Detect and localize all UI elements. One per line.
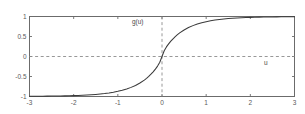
y-axis-label-annotation: g(u) <box>132 19 144 26</box>
chart-plot-area <box>0 0 305 114</box>
y-tick-label: 1 <box>23 13 27 20</box>
figure-canvas: -1-0.500.51 -3-2-10123 g(u)u <box>0 0 305 114</box>
x-tick-label: 2 <box>249 100 253 107</box>
x-tick-label: -3 <box>27 100 33 107</box>
x-tick-label: 3 <box>293 100 297 107</box>
x-axis-label-annotation: u <box>264 60 268 67</box>
y-tick-label: 0.5 <box>17 33 26 40</box>
y-tick-label: -0.5 <box>15 73 26 80</box>
y-tick-label: 0 <box>23 53 27 60</box>
x-tick-label: -1 <box>115 100 121 107</box>
x-tick-label: 1 <box>204 100 208 107</box>
x-tick-label: 0 <box>160 100 164 107</box>
x-tick-label: -2 <box>71 100 77 107</box>
